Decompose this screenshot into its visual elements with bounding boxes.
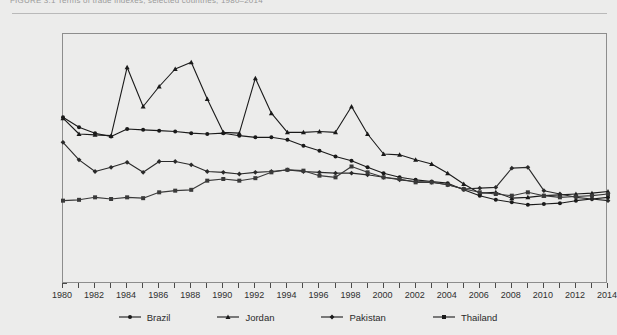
x-axis-tick-label: 1998 xyxy=(341,290,361,300)
data-point-marker xyxy=(382,171,386,175)
data-point-marker xyxy=(349,171,354,176)
data-point-marker xyxy=(189,131,193,135)
data-point-marker xyxy=(157,129,161,133)
data-point-marker xyxy=(442,315,446,319)
legend-item-jordan[interactable]: Jordan xyxy=(216,312,274,323)
data-point-marker xyxy=(445,171,450,176)
data-point-marker xyxy=(285,168,289,172)
data-point-marker xyxy=(205,97,210,102)
data-point-marker xyxy=(317,149,321,153)
data-point-marker xyxy=(542,202,546,206)
data-point-marker xyxy=(237,172,242,177)
legend-item-pakistan[interactable]: Pakistan xyxy=(320,312,385,323)
data-point-marker xyxy=(334,175,338,179)
x-axis-tick-label: 1990 xyxy=(212,290,232,300)
x-axis-tick-label: 1992 xyxy=(244,290,264,300)
triangle-marker-icon xyxy=(216,312,240,322)
data-point-marker xyxy=(253,76,258,81)
data-point-marker xyxy=(542,194,546,198)
legend-label: Pakistan xyxy=(349,312,385,323)
x-axis-tick-label: 2006 xyxy=(469,290,489,300)
figure-caption: FIGURE 3.1 Terms of trade indexes, selec… xyxy=(10,0,610,8)
data-point-marker xyxy=(477,186,482,191)
data-point-marker xyxy=(253,170,258,175)
square-marker-icon xyxy=(432,312,456,322)
data-point-marker xyxy=(189,162,194,167)
data-point-marker xyxy=(253,176,257,180)
data-point-marker xyxy=(77,125,81,129)
diamond-marker-icon xyxy=(320,312,344,322)
data-point-marker xyxy=(462,187,466,191)
data-point-marker xyxy=(253,135,257,139)
data-point-marker xyxy=(365,132,370,137)
data-point-marker xyxy=(205,169,210,174)
x-axis-tick-label: 2002 xyxy=(405,290,425,300)
data-point-marker xyxy=(526,190,530,194)
data-point-marker xyxy=(205,179,209,183)
data-point-marker xyxy=(125,195,129,199)
data-point-marker xyxy=(269,135,273,139)
data-point-marker xyxy=(269,170,273,174)
data-point-marker xyxy=(330,315,335,320)
data-point-marker xyxy=(510,200,514,204)
legend-item-thailand[interactable]: Thailand xyxy=(432,312,497,323)
data-point-marker xyxy=(350,159,354,163)
plot-area xyxy=(62,33,607,283)
data-point-marker xyxy=(510,194,514,198)
data-point-marker xyxy=(285,138,289,142)
data-point-marker xyxy=(606,192,610,196)
series-layer xyxy=(63,34,608,284)
data-point-marker xyxy=(398,177,402,181)
data-point-marker xyxy=(189,60,194,65)
data-point-marker xyxy=(590,194,594,198)
data-point-marker xyxy=(574,195,578,199)
data-point-marker xyxy=(173,159,178,164)
x-axis-tick-label: 1988 xyxy=(180,290,200,300)
data-point-marker xyxy=(478,190,482,194)
data-point-marker xyxy=(109,165,114,170)
data-point-marker xyxy=(334,155,338,159)
data-point-marker xyxy=(350,165,354,169)
data-point-marker xyxy=(173,130,177,134)
data-point-marker xyxy=(414,180,418,184)
x-axis-tick-label: 1984 xyxy=(116,290,136,300)
data-point-marker xyxy=(301,144,305,148)
legend-label: Brazil xyxy=(147,312,171,323)
header-divider xyxy=(12,13,607,14)
data-point-marker xyxy=(494,192,498,196)
data-point-marker xyxy=(269,111,274,116)
x-axis-tick-label: 2004 xyxy=(437,290,457,300)
data-point-marker xyxy=(382,175,386,179)
data-point-marker xyxy=(125,127,129,131)
data-point-marker xyxy=(125,65,130,69)
data-point-marker xyxy=(77,198,81,202)
data-point-marker xyxy=(366,170,370,174)
x-axis-tick-label: 1982 xyxy=(84,290,104,300)
data-point-marker xyxy=(173,189,177,193)
data-point-marker xyxy=(446,183,450,187)
data-point-marker xyxy=(349,104,354,109)
x-axis-tick-label: 2014 xyxy=(597,290,617,300)
data-point-marker xyxy=(141,128,145,132)
data-point-marker xyxy=(128,315,132,319)
legend-label: Jordan xyxy=(245,312,274,323)
circle-marker-icon xyxy=(118,312,142,322)
x-axis-tick-label: 1994 xyxy=(276,290,296,300)
data-point-marker xyxy=(237,179,241,183)
x-axis-tick-label: 1996 xyxy=(308,290,328,300)
data-point-marker xyxy=(558,195,562,199)
data-point-marker xyxy=(221,170,226,175)
data-point-marker xyxy=(109,197,113,201)
data-point-marker xyxy=(189,188,193,192)
data-point-marker xyxy=(333,171,338,176)
data-point-marker xyxy=(157,190,161,194)
data-point-marker xyxy=(61,199,65,203)
data-point-marker xyxy=(221,177,225,181)
x-axis-tick-label: 2012 xyxy=(565,290,585,300)
legend-label: Thailand xyxy=(461,312,497,323)
legend-item-brazil[interactable]: Brazil xyxy=(118,312,171,323)
data-point-marker xyxy=(558,201,562,205)
data-point-marker xyxy=(317,174,321,178)
data-point-marker xyxy=(430,180,434,184)
